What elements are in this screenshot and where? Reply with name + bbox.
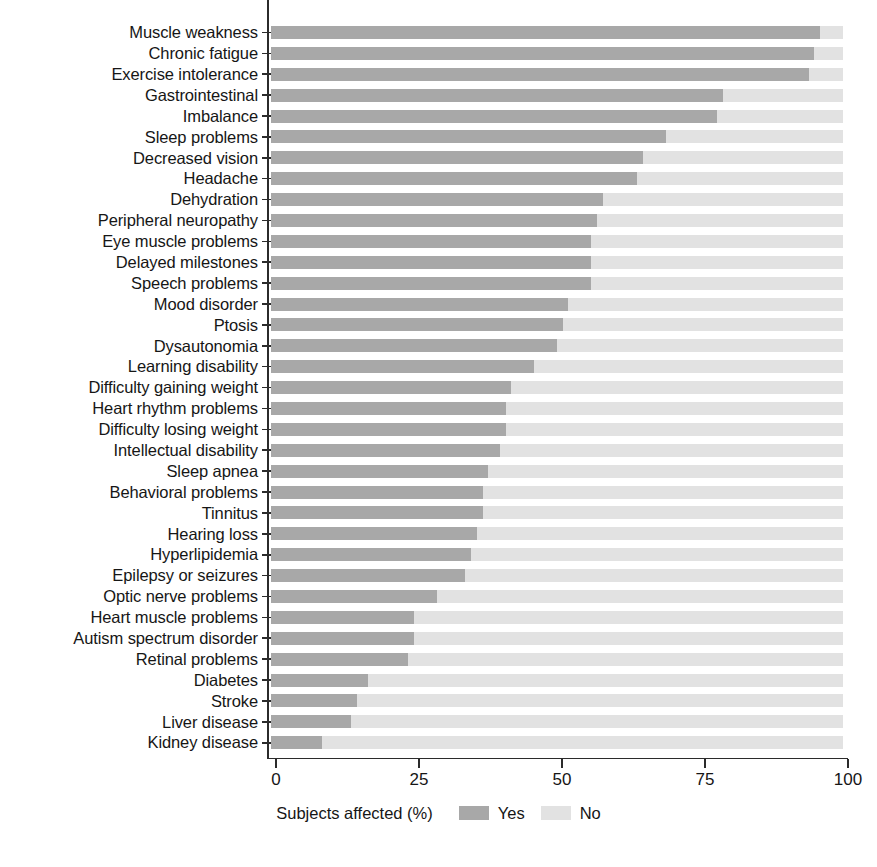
bar-row: Difficulty gaining weight — [0, 377, 877, 398]
y-axis-tick — [262, 115, 271, 117]
bar-segment-yes — [271, 235, 591, 248]
bar-container — [271, 189, 843, 210]
stacked-bar[interactable] — [271, 506, 843, 519]
category-label: Hyperlipidemia — [0, 546, 262, 563]
stacked-bar[interactable] — [271, 402, 843, 415]
x-axis-tick — [275, 759, 277, 768]
category-label: Heart muscle problems — [0, 609, 262, 626]
bar-container — [271, 419, 843, 440]
stacked-bar[interactable] — [271, 653, 843, 666]
plot-area: Muscle weaknessChronic fatigueExercise i… — [0, 0, 877, 790]
stacked-bar[interactable] — [271, 277, 843, 290]
stacked-bar[interactable] — [271, 465, 843, 478]
category-label: Sleep problems — [0, 129, 262, 146]
bar-segment-yes — [271, 590, 437, 603]
bar-segment-no — [483, 506, 843, 519]
stacked-bar[interactable] — [271, 381, 843, 394]
bar-container — [271, 523, 843, 544]
y-axis-tick — [262, 94, 271, 96]
stacked-bar[interactable] — [271, 569, 843, 582]
y-axis-tick — [262, 345, 271, 347]
stacked-bar[interactable] — [271, 89, 843, 102]
x-axis-tick-label: 0 — [271, 770, 280, 790]
category-label: Gastrointestinal — [0, 87, 262, 104]
bar-segment-no — [408, 653, 843, 666]
stacked-bar[interactable] — [271, 423, 843, 436]
bar-segment-no — [414, 632, 843, 645]
y-axis-tick — [262, 721, 271, 723]
legend-item-no[interactable]: No — [541, 804, 601, 823]
y-axis-tick — [262, 637, 271, 639]
bar-row: Hyperlipidemia — [0, 544, 877, 565]
bar-container — [271, 440, 843, 461]
bar-container — [271, 294, 843, 315]
x-axis-tick-label: 75 — [696, 770, 715, 790]
legend-label-yes: Yes — [498, 804, 525, 823]
bar-segment-yes — [271, 318, 563, 331]
stacked-bar[interactable] — [271, 632, 843, 645]
bar-segment-no — [511, 381, 843, 394]
stacked-bar[interactable] — [271, 318, 843, 331]
bar-segment-yes — [271, 130, 666, 143]
stacked-bar[interactable] — [271, 736, 843, 749]
bar-container — [271, 43, 843, 64]
stacked-bar[interactable] — [271, 130, 843, 143]
stacked-bar[interactable] — [271, 235, 843, 248]
bar-segment-no — [506, 423, 843, 436]
bar-row: Ptosis — [0, 314, 877, 335]
category-label: Decreased vision — [0, 150, 262, 167]
bar-row: Speech problems — [0, 273, 877, 294]
stacked-bar[interactable] — [271, 151, 843, 164]
bar-container — [271, 461, 843, 482]
stacked-bar[interactable] — [271, 360, 843, 373]
bar-container — [271, 377, 843, 398]
stacked-bar[interactable] — [271, 611, 843, 624]
y-axis-tick — [262, 533, 271, 535]
y-axis-tick — [262, 32, 271, 34]
category-label: Difficulty gaining weight — [0, 379, 262, 396]
stacked-bar[interactable] — [271, 110, 843, 123]
legend-item-yes[interactable]: Yes — [459, 804, 525, 823]
stacked-bar[interactable] — [271, 694, 843, 707]
bar-segment-yes — [271, 339, 557, 352]
y-axis-tick — [262, 575, 271, 577]
stacked-bar[interactable] — [271, 26, 843, 39]
bar-row: Difficulty losing weight — [0, 419, 877, 440]
bar-container — [271, 502, 843, 523]
bar-row: Diabetes — [0, 670, 877, 691]
stacked-bar[interactable] — [271, 47, 843, 60]
stacked-bar[interactable] — [271, 256, 843, 269]
stacked-bar[interactable] — [271, 444, 843, 457]
category-label: Learning disability — [0, 358, 262, 375]
stacked-bar[interactable] — [271, 590, 843, 603]
bar-segment-yes — [271, 402, 506, 415]
y-axis-tick — [262, 387, 271, 389]
stacked-bar[interactable] — [271, 674, 843, 687]
bar-segment-yes — [271, 423, 506, 436]
bar-segment-yes — [271, 715, 351, 728]
y-axis-tick — [262, 658, 271, 660]
stacked-bar[interactable] — [271, 486, 843, 499]
bar-container — [271, 628, 843, 649]
stacked-bar[interactable] — [271, 548, 843, 561]
category-label: Delayed milestones — [0, 254, 262, 271]
bar-segment-yes — [271, 694, 357, 707]
bar-segment-yes — [271, 611, 414, 624]
bar-segment-yes — [271, 486, 483, 499]
bar-row: Retinal problems — [0, 649, 877, 670]
stacked-bar[interactable] — [271, 527, 843, 540]
bar-segment-yes — [271, 256, 591, 269]
stacked-bar[interactable] — [271, 193, 843, 206]
bar-row: Kidney disease — [0, 732, 877, 753]
stacked-bar[interactable] — [271, 68, 843, 81]
bar-container — [271, 544, 843, 565]
stacked-bar[interactable] — [271, 172, 843, 185]
category-label: Retinal problems — [0, 651, 262, 668]
stacked-bar[interactable] — [271, 298, 843, 311]
stacked-bar[interactable] — [271, 214, 843, 227]
bar-segment-yes — [271, 26, 820, 39]
stacked-bar[interactable] — [271, 715, 843, 728]
stacked-bar[interactable] — [271, 339, 843, 352]
y-axis-tick — [262, 700, 271, 702]
category-label: Intellectual disability — [0, 442, 262, 459]
